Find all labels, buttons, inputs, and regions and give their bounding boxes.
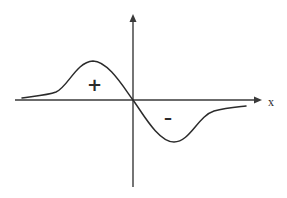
function-diagram — [0, 0, 287, 198]
negative-region-label: – — [164, 110, 172, 126]
x-axis-label: x — [268, 96, 274, 108]
y-axis-arrow-icon — [130, 14, 137, 22]
positive-region-label: + — [87, 76, 102, 94]
function-curve — [22, 61, 246, 142]
x-axis-arrow-icon — [254, 97, 262, 104]
